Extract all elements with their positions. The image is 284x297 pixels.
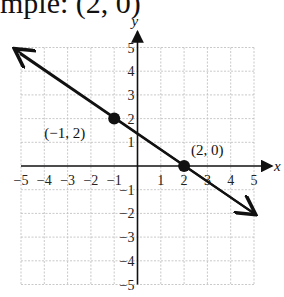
- y-tick-label: 2: [128, 112, 135, 127]
- y-tick-label: −2: [120, 206, 135, 221]
- x-tick-label: 5: [251, 173, 258, 188]
- y-tick-label: −3: [120, 230, 135, 245]
- coordinate-plane: xy −5−4−3−2−11234554321−1−2−3−4−5 (−1, 2…: [0, 0, 284, 297]
- data-point: [108, 113, 120, 125]
- x-axis-label: x: [273, 158, 281, 174]
- point-label: (2, 0): [191, 142, 224, 159]
- y-tick-label: −1: [120, 183, 135, 198]
- x-tick-label: 1: [157, 173, 164, 188]
- data-point: [178, 160, 190, 172]
- y-tick-label: 5: [128, 41, 135, 56]
- axes: xy: [21, 13, 281, 285]
- x-tick-label: −5: [14, 173, 29, 188]
- y-tick-label: 3: [128, 88, 135, 103]
- x-tick-label: −4: [37, 173, 52, 188]
- y-axis-label: y: [130, 13, 139, 29]
- y-tick-label: −5: [120, 278, 135, 293]
- x-tick-label: −3: [60, 173, 75, 188]
- point-label: (−1, 2): [44, 125, 85, 142]
- x-tick-label: 2: [181, 173, 188, 188]
- y-tick-label: −4: [120, 254, 135, 269]
- x-tick-label: 4: [227, 173, 234, 188]
- x-tick-label: −2: [83, 173, 98, 188]
- y-tick-label: 1: [128, 135, 135, 150]
- y-tick-label: 4: [128, 64, 135, 79]
